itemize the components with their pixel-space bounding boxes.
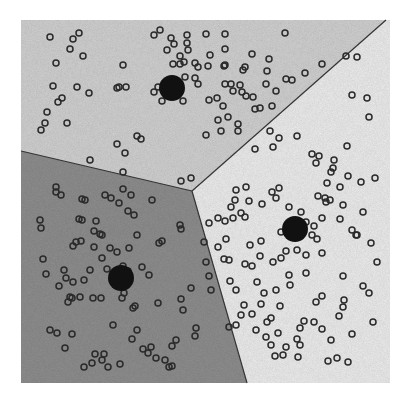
voronoi-plot bbox=[0, 0, 408, 400]
kmeans-voronoi-diagram bbox=[0, 0, 408, 400]
centroid-top bbox=[159, 75, 185, 101]
centroid-right bbox=[282, 216, 308, 242]
centroid-left bbox=[108, 265, 134, 291]
cluster-regions bbox=[21, 20, 390, 383]
